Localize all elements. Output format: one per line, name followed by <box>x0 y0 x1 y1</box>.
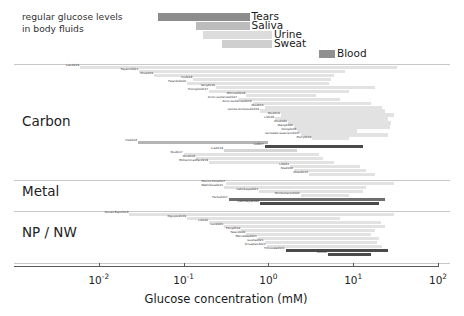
study-range-bar <box>209 221 380 224</box>
study-row: Wakhikwa2021 <box>0 186 464 189</box>
x-axis-tick <box>268 263 269 267</box>
study-range-bar <box>216 86 375 89</box>
study-row: Thiruvala2011 <box>0 249 464 252</box>
study-range-bar <box>258 237 379 240</box>
study-row: Mohammadifar2019 <box>0 161 464 164</box>
study-row: Li2022 <box>0 221 464 224</box>
study-row: Gupta2021 <box>0 241 464 244</box>
study-range-bar <box>294 125 390 128</box>
study-row: Zhu2020 <box>0 121 464 124</box>
body-fluid-bar-saliva <box>196 22 250 30</box>
study-row: Xu2018 <box>0 78 464 81</box>
study-range-bar <box>275 117 388 120</box>
body-fluid-label-sweat: Sweat <box>274 37 306 49</box>
study-row: Xie2018 <box>0 141 464 144</box>
study-row: Cetinkaya2021 <box>0 190 464 193</box>
study-row: Nguyen2019 <box>0 217 464 220</box>
study-label: Cai2019 <box>211 147 223 150</box>
study-label: Amor-Gutierrez2019 <box>222 100 251 103</box>
study-label: Li2017 <box>254 143 264 146</box>
study-range-bar <box>196 157 323 160</box>
study-label: Ferbu2017 <box>212 196 228 199</box>
study-range-bar <box>253 102 371 105</box>
study-label: Mohammadifar2019 <box>179 159 208 162</box>
study-range-bar <box>265 145 363 148</box>
study-label: Lemos-Ambuludi2019 <box>228 108 260 111</box>
study-label: Gonzalez-Guerrero2017 <box>265 132 300 135</box>
body-fluid-row: Saliva <box>0 22 464 30</box>
body-fluid-row: Urine <box>0 31 464 39</box>
study-label: Luo2020 <box>211 223 224 226</box>
study-range-bar <box>288 121 391 124</box>
study-label: Zhao2013 <box>293 171 308 174</box>
study-range-bar <box>312 137 349 140</box>
study-row: Cao2019 <box>0 66 464 69</box>
body-fluid-row: Blood <box>0 50 464 58</box>
study-label: Cetinkaya2021 <box>236 188 258 191</box>
x-axis-tick <box>438 263 439 267</box>
study-range-bar <box>224 225 385 228</box>
study-row: Li2017 <box>0 145 464 148</box>
study-label: Srivastav2021 <box>245 243 266 246</box>
study-range-bar <box>187 217 340 220</box>
study-row: Lemos-Ambuludi2019 <box>0 109 464 112</box>
study-row: Zhao2013 <box>0 173 464 176</box>
study-label: Nguyen2019 <box>168 215 187 218</box>
study-label: Shu2019 <box>140 72 153 75</box>
x-axis-title: Glucose concentration (mM) <box>145 292 308 306</box>
study-range-bar <box>246 94 315 97</box>
x-axis-line <box>14 266 438 267</box>
study-range-bar <box>265 241 377 244</box>
study-row: Wu2019 <box>0 113 464 116</box>
section-separator <box>14 64 450 65</box>
x-axis-tick-label: 101 <box>344 272 362 286</box>
study-range-bar <box>328 253 371 256</box>
study-range-bar <box>241 229 374 232</box>
study-label: Wimbuharjo2022 <box>275 192 300 195</box>
study-range-bar <box>226 182 393 185</box>
study-row: Cetinkaya2022 <box>0 202 464 205</box>
study-row: Niu2018 <box>0 157 464 160</box>
study-range-bar <box>281 113 394 116</box>
body-fluid-bar-blood <box>319 50 335 58</box>
body-fluid-label-blood: Blood <box>337 47 367 59</box>
study-row: Perry2019 <box>0 137 464 140</box>
study-row: Li2018 <box>0 117 464 120</box>
section-separator <box>14 180 450 181</box>
study-label: Perry2019 <box>297 136 312 139</box>
study-row: Fajardo2020 <box>0 82 464 85</box>
glucose-concentration-range-figure: regular glucose levels in body fluidsTea… <box>0 0 464 316</box>
study-range-bar <box>139 70 345 73</box>
body-fluid-bar-urine <box>203 31 272 39</box>
study-row: Mercedes2021 <box>0 237 464 240</box>
x-axis-tick <box>353 263 354 267</box>
study-range-bar <box>246 233 370 236</box>
study-row: Nie2016 <box>0 169 464 172</box>
plot-area: regular glucose levels in body fluidsTea… <box>0 0 464 316</box>
study-label: Thiruvala2011 <box>264 247 285 250</box>
study-row: Niu2017 <box>0 153 464 156</box>
study-range-bar <box>309 173 375 176</box>
x-axis-tick <box>184 263 185 267</box>
section-separator <box>14 211 450 212</box>
study-row: Nunez-Bajo2019 <box>0 213 464 216</box>
study-range-bar <box>260 202 379 205</box>
study-range-bar <box>265 106 383 109</box>
study-range-bar <box>224 149 297 152</box>
study-label: Li2019 <box>317 251 327 254</box>
study-row: Srivastav2021 <box>0 245 464 248</box>
study-row: Wang2020 <box>0 125 464 128</box>
study-row: Cai2019 <box>0 149 464 152</box>
study-label: Cao2019 <box>66 64 79 67</box>
x-axis-tick-label: 100 <box>259 272 277 286</box>
study-label: Fajardo2020 <box>168 80 186 83</box>
body-fluid-bar-tears <box>158 13 250 21</box>
study-label: Hoongbo2017 <box>188 88 208 91</box>
study-row: Dong2018 <box>0 129 464 132</box>
x-axis-tick <box>99 263 100 267</box>
study-row: Shu2019 <box>0 74 464 77</box>
section-separator <box>14 263 450 264</box>
study-row: Munoz-Rios2017 <box>0 182 464 185</box>
study-row: Fayemi2021 <box>0 70 464 73</box>
study-range-bar <box>209 161 334 164</box>
